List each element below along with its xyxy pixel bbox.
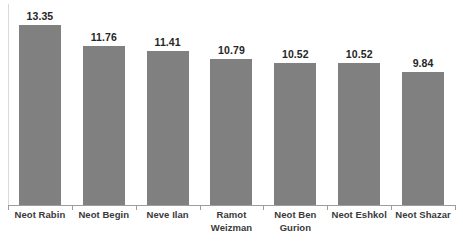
bar[interactable] <box>83 46 125 205</box>
category-label-line: Neot Ben <box>263 209 327 222</box>
category-label-line: Neot Begin <box>72 209 136 222</box>
bar[interactable] <box>338 63 380 205</box>
bar[interactable] <box>210 59 252 205</box>
bar-slot: 11.76 <box>72 4 136 205</box>
category-label-line: Weizman <box>200 222 264 235</box>
x-axis-tick <box>455 205 456 210</box>
bar[interactable] <box>19 25 61 205</box>
category-label: RamotWeizman <box>200 209 264 234</box>
category-label: Neot Begin <box>72 209 136 222</box>
category-label-line: Neot Shazar <box>391 209 455 222</box>
bar-value-label: 11.41 <box>155 36 181 48</box>
bar-value-label: 10.52 <box>346 48 373 60</box>
bar-slot: 9.84 <box>391 4 455 205</box>
bar-chart: 13.3511.7611.4110.7910.5210.529.84 Neot … <box>0 0 463 249</box>
bar[interactable] <box>402 72 444 205</box>
category-label: Neot Rabin <box>8 209 72 222</box>
bar-slot: 10.79 <box>200 4 264 205</box>
bar-slot: 13.35 <box>8 4 72 205</box>
bar-value-label: 9.84 <box>413 57 434 69</box>
category-label: Neot Eshkol <box>327 209 391 222</box>
category-label: Neot Shazar <box>391 209 455 222</box>
bar[interactable] <box>274 63 316 205</box>
bar-slot: 10.52 <box>327 4 391 205</box>
bar-value-label: 10.52 <box>282 48 309 60</box>
category-label-line: Neve Ilan <box>136 209 200 222</box>
category-label: Neve Ilan <box>136 209 200 222</box>
category-label-line: Gurion <box>263 222 327 235</box>
bar-value-label: 13.35 <box>27 10 54 22</box>
category-label-line: Ramot <box>200 209 264 222</box>
bar-value-label: 10.79 <box>218 44 245 56</box>
x-axis-line <box>8 205 455 206</box>
bar-slot: 10.52 <box>263 4 327 205</box>
category-label-line: Neot Rabin <box>8 209 72 222</box>
bar-value-label: 11.76 <box>91 31 117 43</box>
category-label: Neot BenGurion <box>263 209 327 234</box>
bar[interactable] <box>147 51 189 205</box>
bar-slot: 11.41 <box>136 4 200 205</box>
category-label-line: Neot Eshkol <box>327 209 391 222</box>
